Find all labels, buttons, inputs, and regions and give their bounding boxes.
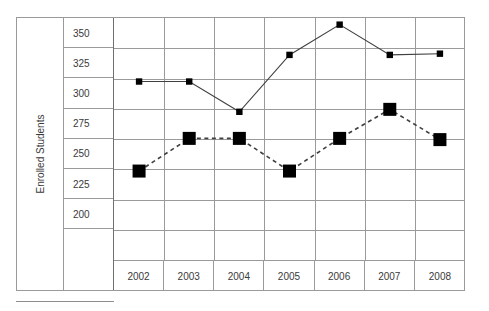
data-point-marker — [136, 78, 142, 84]
x-tick-label: 2008 — [415, 261, 465, 291]
data-point-marker — [383, 103, 396, 116]
y-tick-band: 225 — [64, 169, 113, 199]
y-tick-label: 250 — [73, 148, 90, 159]
x-tick-label: 2002 — [114, 261, 164, 291]
data-point-marker — [336, 21, 342, 27]
y-tick-band: 250 — [64, 139, 113, 169]
plot-area — [114, 18, 465, 260]
x-tick-label: 2004 — [214, 261, 264, 291]
data-point-marker — [233, 132, 246, 145]
x-tick-label: 2003 — [164, 261, 214, 291]
chart-frame: Enrolled Students 350 325 300 275 250 22… — [16, 17, 465, 291]
data-point-marker — [133, 165, 146, 178]
plot-series-svg — [114, 18, 465, 260]
y-tick-band: 325 — [64, 48, 113, 78]
chart-title-strip — [0, 0, 489, 13]
series-line-solid — [139, 25, 440, 112]
y-tick-label: 200 — [73, 208, 90, 219]
y-tick-label: 275 — [73, 118, 90, 129]
data-point-marker — [433, 133, 446, 146]
y-axis-tick-labels: 350 325 300 275 250 225 200 — [64, 18, 114, 290]
y-tick-label: 350 — [73, 27, 90, 38]
y-tick-label: 325 — [73, 57, 90, 68]
data-point-marker — [387, 52, 393, 58]
y-tick-band: 350 — [64, 18, 113, 48]
y-axis-title-cell: Enrolled Students — [17, 18, 64, 290]
data-point-marker — [286, 52, 292, 58]
data-point-marker — [236, 109, 242, 115]
x-tick-label: 2005 — [264, 261, 314, 291]
y-tick-band — [64, 229, 113, 259]
x-axis-tick-labels: 2002200320042005200620072008 — [114, 260, 465, 291]
data-point-marker — [333, 132, 346, 145]
data-point-marker — [283, 165, 296, 178]
y-tick-band: 275 — [64, 109, 113, 139]
y-tick-label: 300 — [73, 87, 90, 98]
data-point-marker — [183, 132, 196, 145]
y-tick-band: 300 — [64, 78, 113, 108]
x-tick-label: 2007 — [365, 261, 415, 291]
legend-rule — [16, 301, 114, 302]
data-point-marker — [186, 78, 192, 84]
x-tick-label: 2006 — [315, 261, 365, 291]
y-tick-band: 200 — [64, 199, 113, 229]
y-tick-label: 225 — [73, 178, 90, 189]
data-point-marker — [437, 50, 443, 56]
y-axis-title: Enrolled Students — [35, 115, 46, 194]
